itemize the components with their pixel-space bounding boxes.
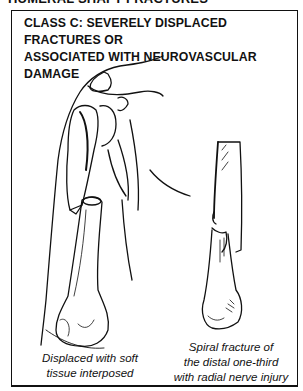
caption-spiral-line-1: Spiral fracture of [164,340,298,355]
caption-displaced: Displaced with soft tissue interposed [26,351,154,381]
caption-displaced-line-1: Displaced with soft [26,351,154,366]
spiral-fracture-drawing [202,142,241,329]
caption-displaced-line-2: tissue interposed [26,366,154,381]
caption-spiral-fracture: Spiral fracture of the distal one-third … [164,340,298,385]
fracture-illustration [0,0,303,391]
displaced-humerus-drawing [41,56,190,348]
caption-spiral-line-2: the distal one-third [164,355,298,370]
caption-spiral-line-3: with radial nerve injury [164,370,298,385]
